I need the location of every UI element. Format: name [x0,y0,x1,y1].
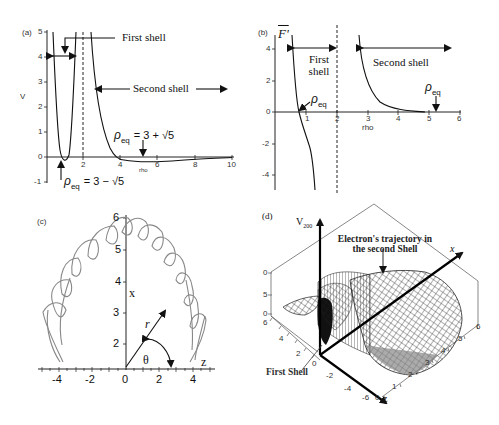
panel-a-ytick: 5 [38,28,42,36]
panel-d-depth-tick: -6 [362,394,369,402]
panel-b-xtick: 5 [427,115,431,123]
second-shell-annotation: Second shell [133,83,189,94]
panel-c-label: (c) [37,218,46,226]
panel-a-ytick: 2 [38,103,42,111]
panel-b-plot [272,25,461,193]
panel-b-ytick: -4 [262,171,269,179]
panel-c-plot [38,215,215,372]
panel-d-left-tick: 0 [263,310,267,318]
panel-d-depth-tick: 2 [296,350,300,358]
panel-a-xtick: 6 [155,161,159,169]
panel-c-vtick: 5 [115,244,121,255]
panel-a-xtick: 10 [227,161,236,169]
r-annotation: r [145,318,150,330]
panel-a-ytick: 4 [38,53,42,61]
panel-c-vtick: 2 [113,338,119,349]
panel-a-ytick: 0 [38,153,42,161]
panel-b-xtick: 6 [457,115,461,123]
panel-c-htick: 4 [190,374,196,385]
panel-c-vtick: 6 [113,212,119,223]
panel-d-depth-tick: 6 [263,319,267,327]
rho-eq-annotation-first: ρeq [311,90,327,109]
panel-b-xtick: 3 [366,115,370,123]
panel-b-ylabel: F' [278,27,289,40]
panel-b-xlabel: rho [362,124,374,132]
panel-a-label: (a) [22,29,32,37]
panel-a-ytick: 1 [38,128,42,136]
panel-c-htick: 2 [156,374,162,385]
panel-d-right-tick: 0 [375,394,379,402]
panel-a-xtick: 4 [118,161,122,169]
rho-eq-plus-annotation: ρeq = 3 + √5 [114,126,174,145]
panel-b-ytick: 0 [266,108,270,116]
z-axis-label: z [383,394,387,404]
trajectory-annotation: Electron's trajectory in the second Shel… [330,235,440,254]
panel-a-xtick: 8 [193,161,197,169]
panel-d-right-tick: 1 [392,383,396,391]
panel-d-depth-tick: 4 [279,335,283,343]
first-shell-annotation: First shell [304,54,334,77]
panel-a-xtick: 2 [81,161,85,169]
panel-a-ytick: 3 [38,78,42,86]
panel-a-plot [44,30,234,183]
panel-d-right-tick: 4 [441,347,445,355]
first-shell-annotation: First Shell [266,368,308,378]
second-shell-annotation: Second shell [373,57,429,68]
v200-axis-label: V200 [296,217,312,229]
panel-a-ytick: -1 [34,178,41,186]
panel-b-label: (b) [258,29,268,37]
panel-b-xtick: 2 [335,115,339,123]
panel-d-label: (d) [262,212,273,221]
panel-d-right-tick: 5 [458,335,462,343]
theta-annotation: θ [143,354,149,366]
panel-d-depth-tick: -4 [344,385,351,393]
panel-a-ylabel: V [20,93,25,101]
panel-b-xtick: 4 [396,115,400,123]
panel-c-vtick: 4 [115,276,121,287]
panel-d-left-tick: 0 [263,269,267,277]
panel-c-haxis-label: z [201,356,206,368]
panel-b-xtick: 1 [305,115,309,123]
x-axis-label: x [450,244,454,254]
panel-d-right-tick: 2 [408,371,412,379]
rho-eq-minus-annotation: ρeq = 3 − √5 [64,172,124,191]
panel-d-depth-tick: 0 [312,360,316,368]
panel-b-ytick: 4 [266,45,270,53]
panel-a-xlabel: rho [139,167,148,173]
panel-c-vtick: 3 [113,307,119,318]
panel-b-ytick: 2 [266,77,270,85]
panel-d-right-tick: 3 [425,359,429,367]
rho-eq-annotation-second: ρeq [425,78,441,97]
panel-c-vaxis-label: x [129,287,135,299]
panel-c-htick: -2 [85,374,95,385]
panel-c-htick: -4 [52,374,62,385]
panel-c-htick: 0 [122,374,128,385]
panel-d-left-tick: 5 [263,291,267,299]
panel-d-right-tick: 6 [476,323,480,331]
first-shell-annotation: First shell [122,32,166,43]
helical-trajectory [43,217,206,362]
panel-b-ytick: -2 [262,140,269,148]
panel-d-depth-tick: -2 [326,372,333,380]
